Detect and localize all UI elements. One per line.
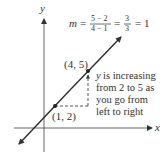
svg-text:=: = [80, 17, 86, 29]
point-1-2 [53, 104, 57, 108]
point-label-1-2: (1, 2) [52, 110, 76, 123]
svg-text:is increasing: is increasing [103, 70, 157, 81]
svg-text:= 1: = 1 [135, 17, 149, 29]
svg-text:you go from: you go from [96, 94, 148, 105]
svg-text:left to right: left to right [96, 106, 143, 117]
svg-text:m: m [69, 17, 77, 29]
slope-diagram: y x (1, 2) (4, 5) m = 5 − 2 4 − 1 = 3 3 … [0, 0, 166, 163]
slope-equation: m = 5 − 2 4 − 1 = 3 3 = 1 [69, 14, 149, 33]
x-axis-label: x [154, 121, 160, 133]
y-axis-label: y [39, 2, 45, 14]
svg-text:y: y [95, 70, 101, 81]
svg-text:3: 3 [125, 14, 129, 23]
svg-text:3: 3 [125, 24, 129, 33]
point-label-4-5: (4, 5) [64, 58, 88, 71]
annotation-text: y is increasing from 2 to 5 as you go fr… [95, 70, 157, 117]
svg-text:4 − 1: 4 − 1 [91, 24, 108, 33]
svg-text:=: = [114, 17, 120, 29]
svg-text:from 2 to 5 as: from 2 to 5 as [96, 82, 154, 93]
svg-text:5 − 2: 5 − 2 [91, 14, 108, 23]
